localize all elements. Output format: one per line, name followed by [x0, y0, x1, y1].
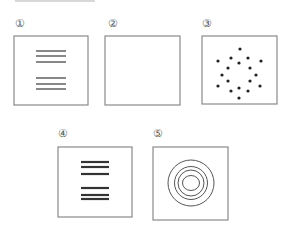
dot: [237, 86, 240, 89]
dot: [254, 73, 257, 76]
panel-2: ②: [105, 17, 180, 105]
panel-4-label: ④: [58, 127, 68, 140]
figure-canvas: ① ② ③ ④ ⑤: [0, 0, 285, 233]
panel-5: ⑤: [153, 127, 228, 220]
panel-5-frame: [153, 147, 228, 220]
dot: [229, 56, 232, 59]
panel-3-label: ③: [202, 17, 212, 30]
dot: [216, 59, 219, 62]
panel-1-lines: [36, 51, 66, 89]
dot: [226, 79, 229, 82]
panel-1-frame: [14, 36, 88, 105]
dot: [216, 84, 219, 87]
panel-3-dots: [216, 47, 262, 99]
dot: [259, 59, 262, 62]
dot: [248, 66, 251, 69]
dot: [246, 89, 249, 92]
concentric-circle: [183, 176, 200, 191]
panel-2-label: ②: [108, 17, 118, 30]
cropped-text-remnant: [15, 0, 95, 2]
dot: [238, 47, 241, 50]
dot: [226, 66, 229, 69]
panel-5-circles: [168, 160, 214, 206]
dot: [258, 84, 261, 87]
dot: [229, 89, 232, 92]
dot: [248, 79, 251, 82]
panel-1: ①: [14, 17, 88, 105]
dot: [246, 56, 249, 59]
concentric-circle: [175, 167, 208, 200]
dot: [237, 61, 240, 64]
panel-4-lines: [81, 162, 109, 199]
panel-5-label: ⑤: [153, 127, 163, 140]
panel-4: ④: [58, 127, 132, 217]
panel-4-frame: [58, 147, 132, 217]
panel-3-frame: [202, 36, 277, 104]
panel-3: ③: [202, 17, 277, 104]
dot: [220, 73, 223, 76]
panel-1-label: ①: [15, 17, 25, 30]
dot: [237, 96, 240, 99]
panel-2-frame: [105, 36, 180, 105]
concentric-circle: [178, 170, 204, 196]
